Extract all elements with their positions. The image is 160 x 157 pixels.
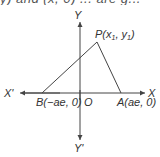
origin-label: O bbox=[84, 96, 93, 108]
point-a-label: A(ae, 0) bbox=[116, 96, 156, 108]
triangle-pab bbox=[42, 42, 121, 93]
point-p-label: P(x1, y1) bbox=[95, 28, 135, 41]
point-b-label: B(−ae, 0) bbox=[36, 96, 82, 108]
y-axis-label: Y bbox=[74, 9, 82, 21]
ellipse-focal-triangle-diagram: Y Y' X' X O B(−ae, 0) A(ae, 0) P(x1, y1) bbox=[0, 0, 160, 157]
x-prime-axis-label: X' bbox=[3, 87, 14, 99]
y-prime-axis-label: Y' bbox=[74, 142, 84, 154]
